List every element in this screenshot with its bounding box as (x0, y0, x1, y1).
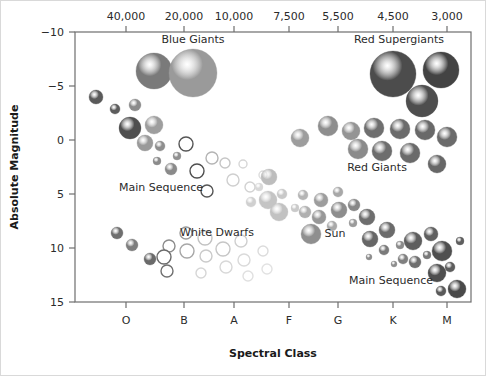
star-marker (366, 254, 372, 260)
x-bottom-tick-label-1: B (180, 314, 188, 327)
star-marker (270, 203, 288, 221)
star-marker (398, 254, 408, 264)
x-bottom-tick-label-5: K (389, 314, 397, 327)
star-marker (255, 183, 263, 191)
star-marker (404, 232, 422, 250)
star-marker (396, 241, 404, 249)
star-marker (409, 256, 421, 268)
star-group-subdwarf-branch (111, 227, 156, 265)
star-marker-open (190, 164, 204, 178)
x-top-tick-label-1: 20,000 (165, 10, 204, 23)
star-marker (445, 262, 455, 272)
annotation-blue-giants: Blue Giants (161, 33, 224, 46)
x-axis-bottom-tick-labels: OBAFGKM (122, 314, 452, 327)
star-marker (428, 155, 446, 173)
star-marker (370, 51, 416, 97)
star-marker (331, 202, 347, 218)
star-marker (400, 143, 420, 163)
star-marker (129, 99, 141, 111)
annotation-red-supergiants: Red Supergiants (354, 33, 444, 46)
star-marker (349, 219, 357, 227)
star-marker-open (157, 250, 171, 264)
star-marker (291, 129, 309, 147)
star-marker-open (161, 265, 173, 277)
x-top-tick-label-4: 5,500 (322, 10, 354, 23)
x-top-tick-label-0: 40,000 (107, 10, 146, 23)
star-marker-open (216, 242, 230, 256)
star-marker (153, 157, 161, 165)
star-group-blue-giants (136, 49, 217, 97)
star-marker (448, 280, 466, 298)
star-marker (390, 119, 410, 139)
x-axis-top-tick-labels: 40,00020,00010,0007,5005,5004,5003,000 (107, 10, 463, 23)
annotation-main-sequence-upper: Main Sequence (119, 181, 203, 194)
y-tick-label-3: 5 (57, 188, 64, 201)
y-tick-label-2: 0 (57, 134, 64, 147)
x-top-tick-label-5: 4,500 (377, 10, 409, 23)
star-marker (348, 199, 360, 211)
star-marker-open (180, 244, 194, 258)
star-marker (111, 227, 123, 239)
star-marker-open (243, 271, 253, 281)
star-marker-open (220, 158, 230, 168)
star-marker (362, 231, 378, 247)
star-marker-open (200, 250, 212, 262)
star-marker (364, 118, 384, 138)
y-axis-title: Absolute Magnitude (8, 105, 21, 230)
star-marker-open (179, 137, 193, 151)
y-tick-label-0: −10 (41, 26, 64, 39)
annotation-white-dwarfs: White Dwarfs (180, 226, 254, 239)
star-marker (333, 187, 343, 197)
star-marker (436, 286, 446, 296)
star-marker (165, 163, 177, 175)
star-marker (456, 237, 464, 245)
star-marker (110, 104, 120, 114)
x-bottom-tick-label-6: M (442, 314, 452, 327)
star-marker (145, 116, 163, 134)
star-marker (424, 227, 438, 241)
x-top-tick-label-6: 3,000 (431, 10, 463, 23)
x-top-tick-label-3: 7,500 (273, 10, 305, 23)
annotation-red-giants: Red Giants (347, 161, 407, 174)
star-marker (423, 52, 459, 88)
star-marker (89, 90, 103, 104)
star-marker (277, 189, 287, 199)
hr-diagram-plot: 40,00020,00010,0007,5005,5004,5003,000 O… (1, 1, 486, 376)
star-marker-open (206, 152, 218, 164)
x-bottom-tick-label-4: G (334, 314, 343, 327)
star-marker-open (238, 254, 250, 266)
x-bottom-tick-label-2: A (230, 314, 238, 327)
star-marker (169, 49, 217, 97)
star-marker (155, 141, 165, 151)
star-group-red-supergiants (370, 51, 459, 117)
star-marker (406, 85, 438, 117)
star-marker (301, 224, 321, 244)
star-marker-open (239, 160, 247, 168)
star-marker (415, 120, 435, 140)
star-marker (137, 135, 153, 151)
star-marker (391, 261, 397, 267)
x-top-tick-label-2: 10,000 (215, 10, 254, 23)
star-marker-open (196, 268, 206, 278)
star-markers (89, 49, 466, 298)
y-tick-label-4: 10 (50, 242, 64, 255)
annotation-main-sequence-lower: Main Sequence (349, 274, 433, 287)
star-marker (342, 122, 360, 140)
star-marker (432, 241, 452, 261)
star-marker (291, 204, 299, 212)
star-marker (246, 197, 256, 207)
y-axis-tick-labels: −10−5051015 (41, 26, 64, 309)
star-marker (348, 139, 368, 159)
star-marker-open (227, 174, 239, 186)
star-marker (299, 206, 311, 218)
hr-diagram-figure: 40,00020,00010,0007,5005,5004,5003,000 O… (0, 0, 486, 376)
star-marker (314, 193, 328, 207)
star-marker (261, 169, 277, 185)
star-marker (379, 245, 389, 255)
y-tick-label-5: 15 (50, 296, 64, 309)
star-marker-open (262, 264, 272, 274)
star-marker-open (258, 246, 268, 256)
star-marker (372, 141, 392, 161)
star-marker (119, 117, 141, 139)
star-marker (136, 53, 172, 89)
